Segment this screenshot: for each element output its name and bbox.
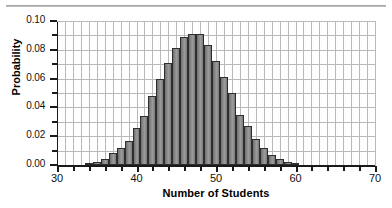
y-tick-minor [52,150,57,152]
x-tick-minor [200,166,202,171]
y-tick-minor [52,34,57,36]
horizontal-gridline [57,35,375,36]
x-tick-minor [73,166,75,171]
plot-right-border [375,21,376,166]
top-divider-rule [6,5,386,7]
histogram-bar [109,153,117,165]
x-tick-minor [89,166,91,171]
y-tick-major [50,20,57,22]
histogram-bar [212,61,220,165]
x-tick-label: 50 [201,172,231,184]
histogram-bar [117,148,125,165]
histogram-bar [172,48,180,165]
y-tick-major [50,49,57,51]
histogram-bar [260,148,268,165]
plot-top-border [57,21,376,22]
y-tick-label: 0.00 [5,158,45,169]
y-tick-major [50,164,57,166]
x-axis-title: Number of Students [57,187,375,199]
histogram-bar [188,34,196,165]
y-tick-major [50,78,57,80]
histogram-bar [125,141,133,165]
x-tick-minor [343,166,345,171]
x-tick-minor [248,166,250,171]
histogram-bar [196,34,204,165]
x-tick-minor [152,166,154,171]
chart-figure: 0.000.020.040.060.080.10 3040506070 Numb… [0,0,392,208]
x-tick-minor [264,166,266,171]
x-tick-label: 60 [281,172,311,184]
histogram-bar [236,115,244,165]
x-tick-minor [121,166,123,171]
y-tick-major [50,106,57,108]
x-tick-label: 30 [42,172,72,184]
histogram-bar [204,45,212,165]
y-axis-title: Probability [10,7,22,127]
x-tick-label: 40 [122,172,152,184]
x-tick-minor [232,166,234,171]
x-tick-minor [184,166,186,171]
histogram-bar [180,37,188,165]
y-tick-minor [52,92,57,94]
histogram-bar [228,93,236,165]
y-tick-minor [52,63,57,65]
x-tick-minor [280,166,282,171]
plot-area [57,21,375,165]
histogram-bar [220,77,228,165]
histogram-bar [252,139,260,165]
x-tick-minor [105,166,107,171]
x-tick-minor [168,166,170,171]
histogram-bar [140,116,148,165]
histogram-bar [148,96,156,165]
y-tick-minor [52,121,57,123]
y-tick-label: 0.02 [5,129,45,140]
x-tick-minor [311,166,313,171]
histogram-bar [133,128,141,165]
histogram-bar [156,79,164,165]
y-tick-major [50,135,57,137]
histogram-bar [244,126,252,165]
x-tick-label: 70 [360,172,390,184]
x-tick-minor [359,166,361,171]
horizontal-gridline [57,50,375,51]
histogram-bar [268,155,276,165]
x-tick-minor [327,166,329,171]
histogram-bar [164,63,172,165]
y-axis-line [57,21,58,166]
